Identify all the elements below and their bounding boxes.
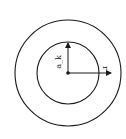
label-a-k: a_k xyxy=(54,55,63,69)
label-r: r xyxy=(101,66,110,70)
concentric-circles-diagram: a_k r xyxy=(0,0,126,139)
